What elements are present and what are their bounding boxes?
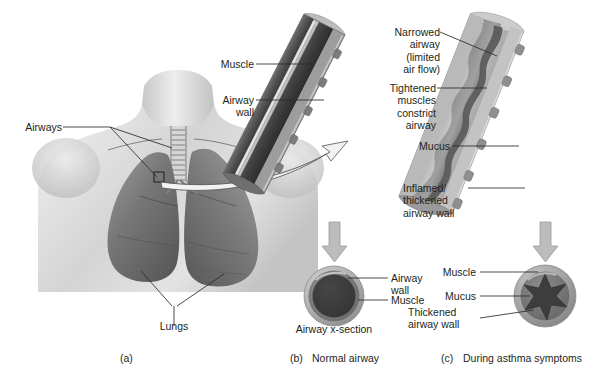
caption-text-b: Normal airway	[312, 352, 379, 364]
label-airway-x-section: Airway x-section	[278, 323, 390, 335]
label-xs-muscle-c: Muscle	[418, 266, 476, 278]
label-airways: Airways	[6, 121, 62, 133]
caption-letter-c: (c)	[441, 352, 453, 364]
figure-canvas: Airways Lungs Muscle Airway wall Airway …	[0, 0, 604, 377]
caption-letter-b: (b)	[290, 352, 303, 364]
figure-graphics	[0, 0, 604, 377]
label-narrowed-airway: Narrowed airway (limited air flow)	[358, 26, 440, 76]
label-tightened-muscles: Tightened muscles constrict airway	[358, 82, 436, 132]
label-lungs: Lungs	[144, 320, 204, 332]
label-airway-wall-b: Airway wall	[196, 94, 254, 119]
label-muscle-b: Muscle	[196, 58, 254, 70]
caption-letter-a: (a)	[120, 352, 133, 364]
label-xs-thickened-wall: Thickened airway wall	[408, 306, 482, 331]
down-arrow-b	[322, 222, 347, 262]
label-xs-mucus-c: Mucus	[418, 290, 476, 302]
label-inflamed-wall: Inflamed/ thickened airway wall	[403, 182, 481, 219]
label-mucus-c: Mucus	[390, 140, 450, 152]
normal-cross-section	[304, 266, 364, 326]
caption-text-c: During asthma symptoms	[463, 352, 582, 364]
down-arrow-c	[533, 222, 558, 262]
